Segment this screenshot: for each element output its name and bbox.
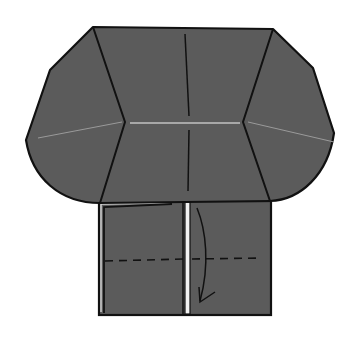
lower-flap <box>99 201 271 315</box>
upper-body <box>26 27 334 203</box>
origami-diagram <box>0 0 364 340</box>
center-strip <box>185 202 190 314</box>
